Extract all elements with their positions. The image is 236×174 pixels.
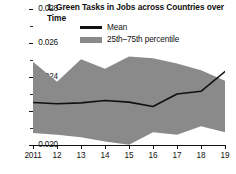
percentile-band	[33, 57, 225, 145]
x-axis-tick	[153, 145, 154, 149]
x-axis-tick	[33, 145, 34, 149]
plot-area	[33, 9, 225, 145]
x-axis-tick	[225, 145, 226, 149]
x-axis-tick	[201, 145, 202, 149]
x-axis-tick	[177, 145, 178, 149]
x-axis-tick	[81, 145, 82, 149]
x-axis-label: 19	[211, 151, 236, 160]
chart-figure: 1. Green Tasks in Jobs across Countries …	[0, 0, 236, 174]
x-axis-tick	[129, 145, 130, 149]
chart-canvas	[33, 9, 225, 145]
x-axis-tick	[57, 145, 58, 149]
x-axis-tick	[105, 145, 106, 149]
